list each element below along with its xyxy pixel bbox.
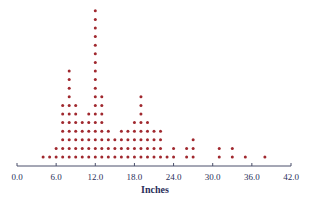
data-dot <box>94 130 97 133</box>
data-dot <box>42 156 45 159</box>
data-dot <box>94 113 97 116</box>
data-dot <box>74 121 77 124</box>
data-dot <box>139 147 142 150</box>
data-dot <box>113 138 116 141</box>
data-dot <box>68 104 71 107</box>
data-dot <box>139 130 142 133</box>
data-dot <box>74 156 77 159</box>
data-dot <box>218 147 221 150</box>
data-dot <box>192 138 195 141</box>
data-dot <box>146 121 149 124</box>
data-dot <box>139 121 142 124</box>
data-dot <box>133 156 136 159</box>
data-dot <box>94 156 97 159</box>
data-dot <box>146 130 149 133</box>
data-dot <box>139 156 142 159</box>
data-dot <box>68 130 71 133</box>
data-dot <box>133 121 136 124</box>
data-dot <box>68 156 71 159</box>
data-dot <box>126 156 129 159</box>
data-dot <box>94 104 97 107</box>
data-dot <box>146 156 149 159</box>
data-dot <box>87 147 90 150</box>
data-dot <box>94 9 97 12</box>
data-dot <box>61 138 64 141</box>
data-dot <box>100 138 103 141</box>
data-dot <box>94 52 97 55</box>
data-dot <box>81 156 84 159</box>
data-dot <box>61 113 64 116</box>
data-dot <box>159 138 162 141</box>
data-dot <box>159 156 162 159</box>
data-dot <box>94 95 97 98</box>
data-dot <box>263 156 266 159</box>
data-dot <box>61 130 64 133</box>
x-axis: 0.0 6.0 12.0 18.0 24.0 30.0 36.0 42.0 In… <box>11 163 299 195</box>
data-dot <box>81 121 84 124</box>
data-dot <box>100 95 103 98</box>
data-dot <box>139 138 142 141</box>
data-dot <box>100 147 103 150</box>
data-dot <box>94 27 97 30</box>
data-dot <box>94 70 97 73</box>
data-dot <box>153 156 156 159</box>
data-dot <box>94 78 97 81</box>
data-dot <box>100 156 103 159</box>
data-dot <box>146 147 149 150</box>
data-dot <box>139 95 142 98</box>
data-dot <box>192 147 195 150</box>
data-dot <box>153 130 156 133</box>
data-dot <box>68 70 71 73</box>
data-dot <box>107 156 110 159</box>
data-dot <box>113 156 116 159</box>
data-dot <box>94 87 97 90</box>
data-dot <box>94 35 97 38</box>
data-dot <box>55 147 58 150</box>
data-dot <box>107 130 110 133</box>
data-dot <box>126 147 129 150</box>
tick-label: 18.0 <box>127 172 143 182</box>
data-dot <box>107 147 110 150</box>
data-dot <box>133 138 136 141</box>
data-dot <box>113 147 116 150</box>
data-dot <box>68 138 71 141</box>
data-dot <box>133 147 136 150</box>
data-dot <box>231 156 234 159</box>
data-dot <box>87 156 90 159</box>
data-dot <box>185 156 188 159</box>
data-dot <box>139 104 142 107</box>
data-dot <box>61 121 64 124</box>
data-dot <box>74 138 77 141</box>
data-dot <box>48 156 51 159</box>
data-dot <box>100 130 103 133</box>
data-dot <box>172 156 175 159</box>
data-dot <box>139 113 142 116</box>
data-dot <box>244 156 247 159</box>
data-dot <box>74 113 77 116</box>
data-dot <box>120 147 123 150</box>
data-dot <box>126 130 129 133</box>
data-dot <box>100 113 103 116</box>
tick-label: 0.0 <box>11 172 23 182</box>
data-dot <box>61 147 64 150</box>
dot-plot-chart: 0.0 6.0 12.0 18.0 24.0 30.0 36.0 42.0 In… <box>0 0 317 207</box>
tick-label: 6.0 <box>51 172 63 182</box>
data-dot <box>87 121 90 124</box>
data-dot <box>133 130 136 133</box>
data-dot <box>94 61 97 64</box>
data-dot <box>218 156 221 159</box>
data-dot <box>55 156 58 159</box>
data-dot <box>126 138 129 141</box>
data-dot <box>81 130 84 133</box>
data-dot <box>61 156 64 159</box>
tick-label: 30.0 <box>205 172 221 182</box>
tick-label: 24.0 <box>166 172 182 182</box>
data-dot <box>159 130 162 133</box>
data-dot <box>74 130 77 133</box>
data-dot <box>192 156 195 159</box>
data-dot <box>120 138 123 141</box>
tick-label: 36.0 <box>244 172 260 182</box>
data-dot <box>153 147 156 150</box>
tick-label: 42.0 <box>283 172 299 182</box>
tick-label: 12.0 <box>87 172 103 182</box>
